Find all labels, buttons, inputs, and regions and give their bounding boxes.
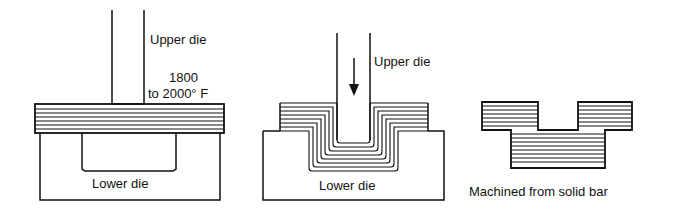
machined-caption: Machined from solid bar (469, 184, 608, 199)
temperature-label-line2: to 2000° F (148, 86, 208, 101)
hot-bar-stock (35, 104, 224, 133)
panel-3-machined-part (482, 102, 632, 168)
grain-flow-lines (280, 103, 428, 171)
upper-die (112, 10, 144, 104)
lower-die-label: Lower die (319, 178, 375, 193)
forging-diagram: Upper die 1800 to 2000° F Lower die Uppe… (0, 0, 675, 213)
temperature-label-line1: 1800 (169, 70, 198, 85)
upper-die-label: Upper die (150, 32, 206, 47)
arrow-down-icon (349, 58, 359, 96)
upper-die-label: Upper die (374, 54, 430, 69)
lower-die-label: Lower die (92, 176, 148, 191)
